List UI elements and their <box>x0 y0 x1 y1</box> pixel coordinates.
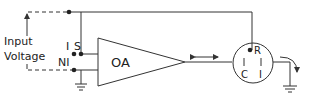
circuit-diagram: Input Voltage I S NI OA R C I <box>0 0 311 105</box>
terminal-ni-dot <box>72 68 77 73</box>
c-label: C <box>241 69 248 80</box>
r-label: R <box>254 45 261 56</box>
indicator-label: I <box>259 69 262 80</box>
junction-dot <box>67 10 72 15</box>
oa-label: OA <box>111 55 130 70</box>
voltage-label: Voltage <box>4 50 45 63</box>
electrochemical-cell <box>233 43 273 83</box>
i-label: I <box>66 40 69 53</box>
s-label: S <box>74 40 81 53</box>
reference-dot <box>248 48 253 53</box>
input-label: Input <box>4 35 33 48</box>
ni-label: NI <box>58 56 69 69</box>
curved-arrow-icon <box>280 57 297 72</box>
